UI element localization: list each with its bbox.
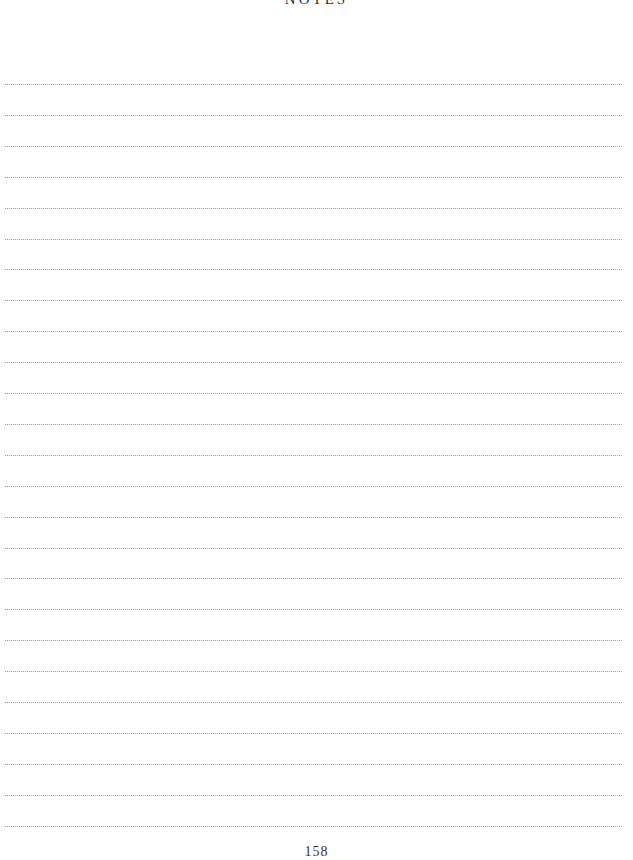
note-line [5, 146, 622, 147]
note-line [5, 455, 622, 456]
note-line [5, 640, 622, 641]
note-line [5, 177, 622, 178]
note-line [5, 609, 622, 610]
note-line [5, 548, 622, 549]
note-line [5, 702, 622, 703]
note-line [5, 486, 622, 487]
note-line [5, 208, 622, 209]
note-line [5, 826, 622, 827]
note-line [5, 578, 622, 579]
note-line [5, 671, 622, 672]
note-line [5, 269, 622, 270]
note-line [5, 300, 622, 301]
note-line [5, 362, 622, 363]
note-line [5, 393, 622, 394]
note-line [5, 795, 622, 796]
page-title: NOTES [0, 0, 633, 8]
note-line [5, 424, 622, 425]
page-number: 158 [0, 844, 633, 860]
note-line [5, 115, 622, 116]
note-line [5, 733, 622, 734]
note-line [5, 764, 622, 765]
note-line [5, 517, 622, 518]
note-line [5, 84, 622, 85]
note-line [5, 239, 622, 240]
note-line [5, 331, 622, 332]
